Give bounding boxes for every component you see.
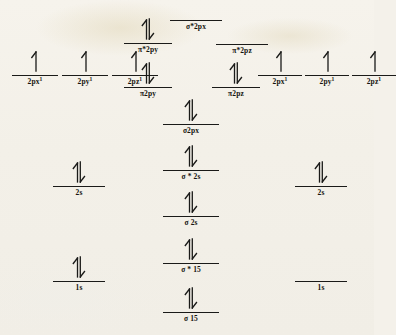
electron-pair <box>180 238 202 262</box>
electron-pair <box>225 62 247 86</box>
level-label: 2pz1 <box>367 78 381 86</box>
level-label: σ 15 <box>184 315 198 323</box>
electron-pair <box>137 62 159 86</box>
electron-pair <box>137 18 159 42</box>
level-label-superscript: 1 <box>90 75 93 81</box>
electron-pair <box>68 256 90 280</box>
level-label: σ * 2s <box>182 173 201 181</box>
electron-pair <box>68 161 90 185</box>
level-label-superscript: 1 <box>332 75 335 81</box>
level-label: σ * 15 <box>181 266 201 274</box>
level-label: 2px1 <box>28 78 43 86</box>
level-label-superscript: 1 <box>40 75 43 81</box>
electron-pair <box>180 287 202 311</box>
electron-single <box>269 50 291 74</box>
electron-pair <box>180 191 202 215</box>
level-label: 1s <box>318 284 325 292</box>
electron-pair <box>180 99 202 123</box>
level-label: 2py1 <box>320 78 335 86</box>
electron-single <box>316 50 338 74</box>
level-label: 2s <box>76 189 83 197</box>
level-label: σ2px <box>183 127 199 135</box>
level-label: 1s <box>76 284 83 292</box>
electron-single <box>363 50 385 74</box>
level-label: σ 2s <box>184 219 197 227</box>
level-label: π*2pz <box>232 47 252 55</box>
level-label: 2py1 <box>78 78 93 86</box>
level-label-superscript: 1 <box>285 75 288 81</box>
level-label-superscript: 1 <box>378 75 381 81</box>
electron-pair <box>310 161 332 185</box>
electron-pair <box>180 145 202 169</box>
level-label: 2px1 <box>273 78 288 86</box>
level-label: π2py <box>140 90 156 98</box>
level-label: 2s <box>318 189 325 197</box>
electron-single <box>24 50 46 74</box>
level-label: σ*2px <box>186 23 206 31</box>
level-label: π*2py <box>138 46 158 54</box>
level-label: π2pz <box>228 90 244 98</box>
electron-single <box>74 50 96 74</box>
